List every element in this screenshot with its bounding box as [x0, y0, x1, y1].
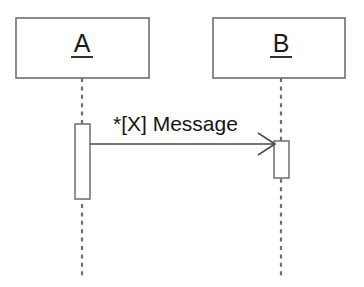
activation-bar-b[interactable]: [274, 141, 289, 178]
participant-a[interactable]: A: [16, 18, 149, 277]
uml-sequence-diagram: A B *[X] Message: [0, 0, 364, 287]
message-label-1: *[X] Message: [113, 112, 238, 135]
diagram-canvas-svg: A B *[X] Message: [0, 0, 364, 287]
message-arrow-1[interactable]: *[X] Message: [90, 112, 275, 155]
participant-b[interactable]: B: [213, 18, 345, 277]
object-label-a: A: [74, 29, 91, 57]
activation-bar-a[interactable]: [75, 124, 90, 199]
object-label-b: B: [273, 29, 290, 57]
